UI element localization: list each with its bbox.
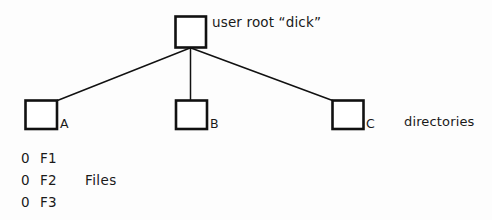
file-marker-icon: 0 — [21, 194, 30, 210]
file-group-label: Files — [85, 172, 117, 188]
file-name: F1 — [40, 150, 57, 166]
node-box-b[interactable] — [176, 101, 207, 130]
file-row: 0 F3 — [21, 194, 47, 216]
directories-annotation: directories — [404, 115, 475, 128]
node-letter-b: B — [210, 118, 219, 131]
diagram-canvas: user root “dick” A B C directories 0 F1 … — [0, 0, 492, 220]
node-letter-a: A — [60, 118, 69, 131]
edge-root-to-a — [58, 48, 191, 101]
file-marker-icon: 0 — [21, 172, 30, 188]
file-marker-icon: 0 — [21, 150, 30, 166]
node-letter-c: C — [366, 118, 375, 131]
node-box-root[interactable] — [176, 17, 207, 48]
root-node-label: user root “dick” — [212, 16, 321, 30]
node-box-a[interactable] — [26, 101, 58, 130]
file-row: 0 F1 — [21, 150, 47, 172]
file-name: F2 — [40, 172, 57, 188]
node-box-c[interactable] — [333, 101, 364, 130]
tree-diagram-graphic — [0, 0, 492, 220]
file-row: 0 F2 Files — [21, 172, 47, 194]
file-list: 0 F1 0 F2 Files 0 F3 — [21, 150, 47, 216]
edge-root-to-c — [191, 48, 333, 101]
file-name: F3 — [40, 194, 57, 210]
